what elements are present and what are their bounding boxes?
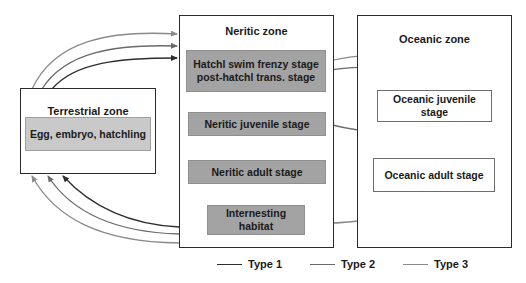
legend-line-type1 — [217, 264, 242, 265]
legend-line-type3 — [403, 264, 428, 265]
arrow-neritic-to-terrestrial-type3 — [32, 176, 179, 243]
neritic-juvenile-stage: Neritic juvenile stage — [188, 112, 326, 136]
arrow-terrestrial-to-neritic-type3 — [32, 33, 177, 89]
hatchling-swim-frenzy-stage: Hatchl swim frenzy stage post-hatchl tra… — [186, 50, 326, 92]
oceanic-adult-label: Oceanic adult stage — [384, 169, 483, 182]
neritic-adult-label: Neritic adult stage — [211, 166, 302, 179]
legend-label-type1: Type 1 — [248, 258, 282, 270]
internesting-habitat: Internesting habitat — [207, 205, 305, 235]
arrow-terrestrial-to-neritic-type1 — [52, 58, 177, 89]
terrestrial-zone-title: Terrestrial zone — [21, 105, 155, 117]
legend-label-type2: Type 2 — [341, 258, 375, 270]
arrow-neritic-to-terrestrial-type1 — [63, 176, 179, 227]
oceanic-juvenile-label-line1: Oceanic juvenile — [393, 93, 476, 106]
legend-line-type2 — [310, 264, 335, 265]
neritic-adult-stage: Neritic adult stage — [188, 160, 326, 184]
internesting-label-line1: Internesting — [226, 207, 286, 220]
legend-type3: Type 3 — [403, 258, 468, 270]
internesting-label-line2: habitat — [239, 220, 273, 233]
oceanic-zone-title: Oceanic zone — [358, 33, 511, 45]
hatchl-label-line2: post-hatchl trans. stage — [197, 71, 315, 84]
neritic-juvenile-label: Neritic juvenile stage — [204, 118, 309, 131]
egg-stage-label: Egg, embryo, hatchling — [30, 128, 146, 141]
hatchl-label-line1: Hatchl swim frenzy stage — [193, 58, 318, 71]
arrow-terrestrial-to-neritic-type2 — [42, 46, 177, 89]
oceanic-adult-stage: Oceanic adult stage — [373, 158, 495, 192]
legend-type1: Type 1 — [217, 258, 282, 270]
legend-type2: Type 2 — [310, 258, 375, 270]
oceanic-juvenile-label-line2: stage — [421, 106, 448, 119]
legend-label-type3: Type 3 — [434, 258, 468, 270]
neritic-zone-title: Neritic zone — [180, 25, 333, 37]
oceanic-juvenile-stage: Oceanic juvenile stage — [377, 90, 492, 122]
arrow-neritic-to-terrestrial-type2 — [48, 176, 179, 234]
terrestrial-zone: Terrestrial zone Egg, embryo, hatchling — [20, 88, 156, 174]
oceanic-zone: Oceanic zone — [357, 15, 512, 248]
egg-embryo-hatchling-stage: Egg, embryo, hatchling — [25, 117, 151, 151]
